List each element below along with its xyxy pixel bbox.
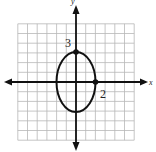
x-axis-right-arrow-icon	[140, 79, 148, 86]
y-axis-label: y	[70, 0, 75, 6]
point-y-intercept	[73, 49, 79, 55]
label-3: 3	[65, 36, 71, 50]
label-2: 2	[100, 87, 106, 101]
y-axis-top-arrow-icon	[73, 5, 80, 14]
x-axis-label: x	[148, 78, 153, 87]
x-axis-left-arrow-icon	[4, 79, 12, 86]
point-x-intercept	[93, 79, 99, 85]
graph-figure: 3 2 y x	[0, 0, 156, 152]
y-axis	[73, 5, 80, 151]
y-axis-bottom-arrow-icon	[73, 142, 80, 151]
